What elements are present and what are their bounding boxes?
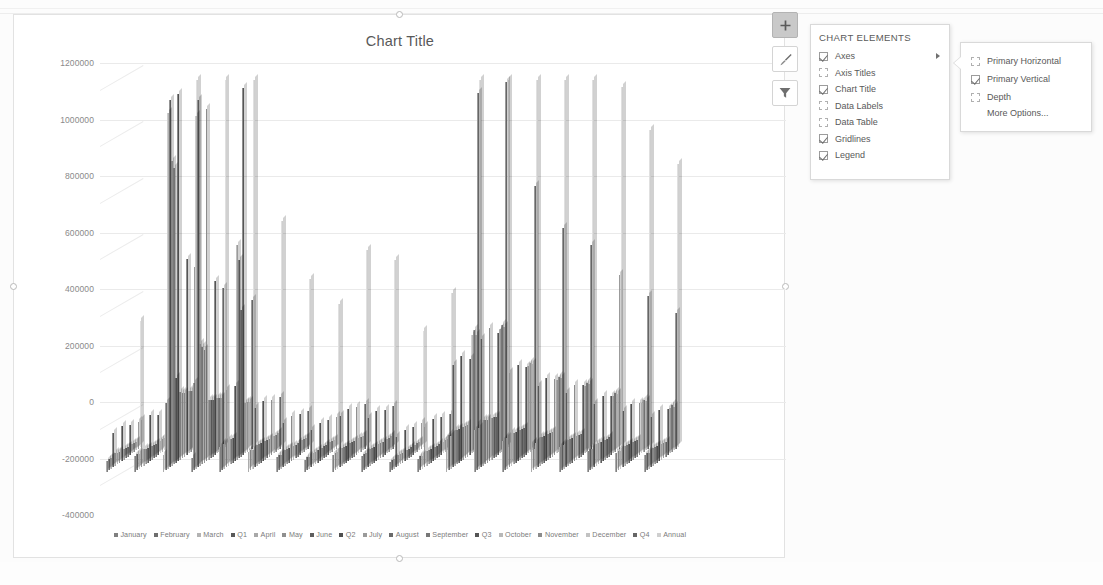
legend-item[interactable]: March: [197, 530, 224, 539]
bar[interactable]: [219, 447, 221, 472]
checkbox-icon[interactable]: [819, 118, 828, 127]
axes-submenu-row-depth[interactable]: Depth: [971, 88, 1091, 106]
legend-item[interactable]: January: [114, 530, 147, 539]
bar[interactable]: [389, 462, 391, 472]
legend-item[interactable]: June: [310, 530, 333, 539]
bar[interactable]: [615, 453, 617, 472]
plot-area[interactable]: 120000010000008000006000004000002000000-…: [14, 63, 786, 515]
checkbox-icon[interactable]: [819, 151, 828, 160]
chart-element-row-data-labels[interactable]: Data Labels: [819, 98, 949, 115]
checkbox-icon[interactable]: [971, 75, 980, 84]
bar[interactable]: [587, 451, 589, 472]
y-axis[interactable]: 120000010000008000006000004000002000000-…: [14, 63, 100, 515]
chart-element-row-data-table[interactable]: Data Table: [819, 114, 949, 131]
legend-label: October: [505, 530, 531, 539]
legend-item[interactable]: May: [282, 530, 302, 539]
legend-item[interactable]: Annual: [657, 530, 686, 539]
menu-item-label: Gridlines: [835, 134, 871, 144]
legend-item[interactable]: February: [154, 530, 190, 539]
legend-item[interactable]: August: [389, 530, 418, 539]
legend-item[interactable]: December: [586, 530, 626, 539]
more-options-link[interactable]: More Options...: [971, 108, 1091, 118]
y-axis-tick-label: 200000: [16, 341, 94, 351]
chart-object[interactable]: Chart Title 1200000100000080000060000040…: [13, 14, 785, 558]
axes-submenu[interactable]: Primary HorizontalPrimary VerticalDepth …: [960, 42, 1092, 132]
menu-item-label: Data Labels: [835, 101, 883, 111]
chart-elements-header: CHART ELEMENTS: [819, 32, 949, 43]
y-axis-tick-label: 800000: [16, 171, 94, 181]
y-axis-tick-label: 600000: [16, 228, 94, 238]
checkbox-icon[interactable]: [819, 134, 828, 143]
checkbox-icon[interactable]: [819, 85, 828, 94]
legend-swatch: [499, 533, 503, 537]
brush-icon: [778, 52, 793, 67]
bar[interactable]: [134, 456, 136, 472]
checkbox-icon[interactable]: [971, 57, 980, 66]
bar[interactable]: [276, 457, 278, 472]
bar[interactable]: [474, 430, 476, 472]
bar[interactable]: [248, 452, 250, 472]
bar[interactable]: [446, 438, 448, 472]
legend-swatch: [426, 533, 430, 537]
axes-submenu-row-primary-vertical[interactable]: Primary Vertical: [971, 70, 1091, 88]
bar[interactable]: [531, 445, 533, 472]
chart-element-row-legend[interactable]: Legend: [819, 147, 949, 164]
bar[interactable]: [644, 455, 646, 472]
status-bar: [0, 562, 1103, 585]
bar[interactable]: [559, 447, 561, 472]
chart-filters-button[interactable]: [772, 80, 798, 106]
legend-item[interactable]: July: [363, 530, 383, 539]
submenu-notch: [954, 57, 961, 69]
chart-element-row-chart-title[interactable]: Chart Title: [819, 81, 949, 98]
y-axis-tick-label: -200000: [16, 454, 94, 464]
bar[interactable]: [502, 441, 504, 472]
legend-swatch: [657, 533, 661, 537]
y-axis-tick-label: 0: [16, 397, 94, 407]
legend-swatch: [282, 533, 286, 537]
legend-item[interactable]: November: [538, 530, 578, 539]
legend-swatch: [310, 533, 314, 537]
legend-swatch: [538, 533, 542, 537]
menu-item-label: Chart Title: [835, 84, 876, 94]
legend-label: November: [545, 530, 579, 539]
funnel-icon: [778, 86, 792, 100]
bar[interactable]: [417, 459, 419, 472]
legend-label: June: [316, 530, 332, 539]
legend-swatch: [254, 533, 258, 537]
selection-handle-top[interactable]: [396, 11, 403, 18]
legend-item[interactable]: Q4: [633, 530, 649, 539]
legend-item[interactable]: Q2: [339, 530, 355, 539]
bar[interactable]: [361, 456, 363, 472]
chart-element-row-axis-titles[interactable]: Axis Titles: [819, 65, 949, 82]
chevron-right-icon[interactable]: [936, 53, 940, 59]
legend-item[interactable]: April: [254, 530, 275, 539]
bar[interactable]: [106, 461, 108, 472]
chart-title[interactable]: Chart Title: [14, 33, 786, 49]
checkbox-icon[interactable]: [819, 52, 828, 61]
bar[interactable]: [332, 455, 334, 472]
checkbox-icon[interactable]: [819, 101, 828, 110]
chart-elements-panel[interactable]: CHART ELEMENTS AxesAxis TitlesChart Titl…: [810, 24, 950, 180]
checkbox-icon[interactable]: [819, 68, 828, 77]
bar[interactable]: [191, 458, 193, 472]
selection-handle-bottom[interactable]: [396, 555, 403, 562]
bar[interactable]: [304, 460, 306, 472]
axes-submenu-row-primary-horizontal[interactable]: Primary Horizontal: [971, 52, 1091, 70]
bar-series-group[interactable]: [100, 63, 786, 515]
chart-element-row-gridlines[interactable]: Gridlines: [819, 131, 949, 148]
legend-item[interactable]: October: [499, 530, 532, 539]
chart-legend[interactable]: JanuaryFebruaryMarchQ1AprilMayJuneQ2July…: [14, 530, 786, 539]
chart-styles-button[interactable]: [772, 46, 798, 72]
legend-swatch: [231, 533, 235, 537]
checkbox-icon[interactable]: [971, 93, 980, 102]
chart-element-row-axes[interactable]: Axes: [819, 48, 949, 65]
chart-elements-list: AxesAxis TitlesChart TitleData LabelsDat…: [819, 48, 949, 164]
y-axis-tick-label: 1000000: [16, 115, 94, 125]
legend-item[interactable]: Q3: [475, 530, 491, 539]
legend-swatch: [389, 533, 393, 537]
legend-item[interactable]: September: [426, 530, 469, 539]
chart-elements-button[interactable]: [772, 12, 798, 38]
legend-item[interactable]: Q1: [231, 530, 247, 539]
bar[interactable]: [163, 455, 165, 473]
legend-swatch: [339, 533, 343, 537]
